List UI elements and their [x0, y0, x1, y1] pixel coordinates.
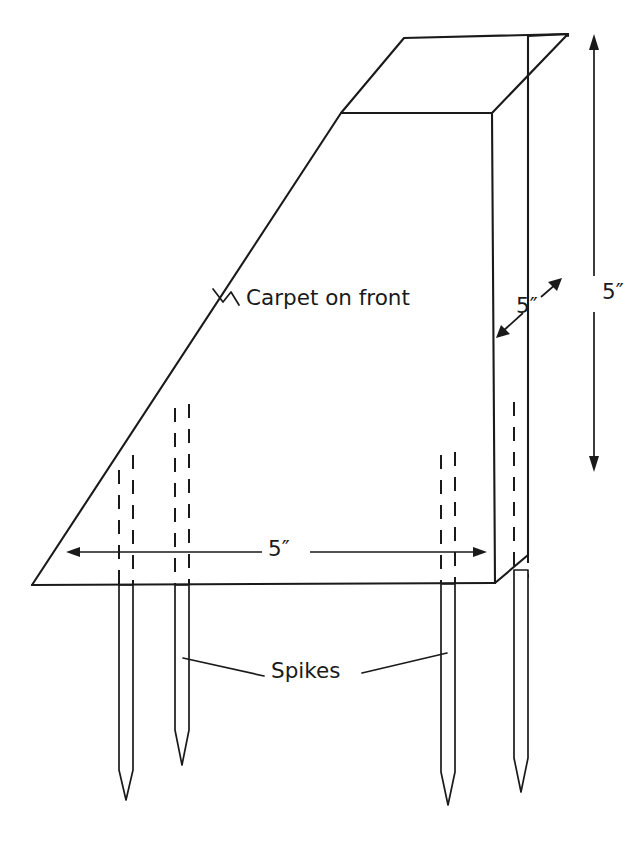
- diagram-canvas: [0, 0, 643, 844]
- carpet-label: Carpet on front: [246, 287, 410, 309]
- depth-dimension-label: 5″: [516, 295, 538, 317]
- technical-diagram-figure: Carpet on front Spikes 5″ 5″ 5″: [0, 0, 643, 844]
- spike: [175, 585, 189, 765]
- leader-line-icon: [362, 653, 447, 673]
- arrowhead-up-icon: [589, 34, 599, 50]
- spikes-group: [119, 570, 528, 805]
- height-dimension-label: 5″: [602, 281, 624, 303]
- dimension-height: [589, 34, 599, 472]
- arrowhead-down-icon: [589, 456, 599, 472]
- spike: [119, 585, 133, 800]
- spikes-label: Spikes: [271, 660, 340, 682]
- spike: [514, 570, 528, 792]
- front-slope-fill: [32, 113, 495, 585]
- leader-line-icon: [183, 658, 264, 676]
- width-dimension-label: 5″: [268, 538, 290, 560]
- spike: [441, 584, 455, 805]
